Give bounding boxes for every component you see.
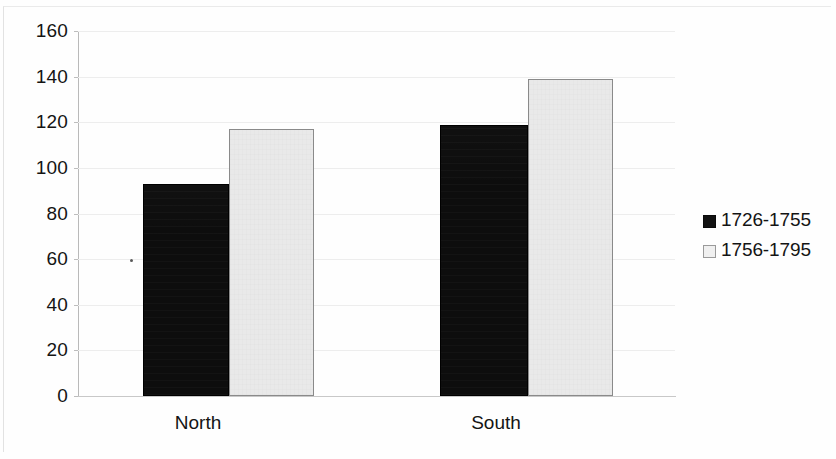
- y-tick-label-60: 60: [6, 249, 68, 268]
- y-tick-label-0: 0: [6, 386, 68, 405]
- y-tick-label-140: 140: [6, 67, 68, 86]
- x-category-label-north: North: [108, 412, 288, 434]
- bar-texture: [144, 185, 228, 395]
- bar-texture: [230, 130, 313, 395]
- legend-label: 1726-1755: [721, 210, 811, 230]
- y-tick-label-120: 120: [6, 112, 68, 131]
- y-tick-label-40: 40: [6, 295, 68, 314]
- x-category-label-south: South: [406, 412, 586, 434]
- y-tick-label-160: 160: [6, 21, 68, 40]
- legend-item-1726-1755[interactable]: 1726-1755: [703, 205, 831, 235]
- y-tick-label-20: 20: [6, 340, 68, 359]
- plot-area: [78, 31, 675, 396]
- bar-south-1726-1755[interactable]: [440, 125, 528, 397]
- chart-legend: 1726-1755 1756-1795: [703, 205, 831, 265]
- bar-north-1756-1795[interactable]: [229, 129, 314, 396]
- gridline-160: [78, 31, 675, 32]
- outlined-square-icon: [703, 245, 716, 258]
- bar-chart: 160 140 120 100 80 60 40 20 0: [0, 0, 836, 459]
- y-axis-labels: 160 140 120 100 80 60 40 20 0: [0, 31, 68, 397]
- bar-texture: [529, 80, 612, 395]
- filled-square-icon: [703, 215, 716, 228]
- gridline-0: [78, 396, 675, 397]
- bar-texture: [441, 126, 527, 396]
- gridline-140: [78, 77, 675, 78]
- bar-south-1756-1795[interactable]: [528, 79, 613, 396]
- y-tick-label-100: 100: [6, 158, 68, 177]
- legend-label: 1756-1795: [721, 240, 811, 260]
- y-tick-label-80: 80: [6, 204, 68, 223]
- bar-north-1726-1755[interactable]: [143, 184, 229, 396]
- legend-item-1756-1795[interactable]: 1756-1795: [703, 235, 831, 265]
